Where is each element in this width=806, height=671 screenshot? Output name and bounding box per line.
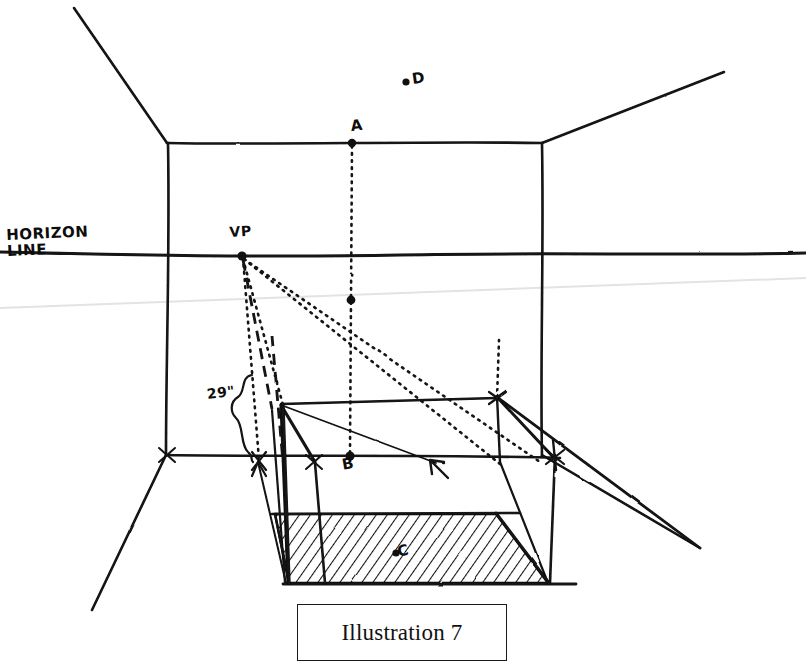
- dot-midpoint-on-ab: [347, 296, 356, 305]
- caption-text: Illustration 7: [342, 620, 463, 646]
- faint-guide-line: [0, 278, 806, 308]
- floor-ray-right: [542, 455, 700, 548]
- horizon-line: [0, 252, 806, 256]
- dotted-ray-vp-to-box-corner: [243, 259, 283, 405]
- ceiling-ray-right: [542, 72, 724, 143]
- point-b-label: B: [341, 456, 355, 474]
- dot-point-a: [348, 139, 356, 147]
- tick-mark-floor-left: [306, 455, 322, 469]
- box-top-horizontal: [281, 398, 497, 404]
- illustration-canvas: HORIZON LINE VP A D B C 29" Illustration…: [0, 0, 806, 671]
- point-d-label: D: [411, 70, 426, 87]
- dotted-vertical-right-upper: [497, 340, 499, 398]
- floor-plane-hatched: [275, 514, 548, 583]
- perspective-sketch: [0, 0, 806, 671]
- long-slanted-ray: [497, 397, 700, 548]
- arrow-pointer-right: [430, 460, 448, 478]
- back-wall-left-edge: [166, 143, 169, 455]
- measurement-brace: [232, 375, 253, 462]
- dashed-ray-vp-to-post: [243, 260, 272, 409]
- floor-diagonal-from-left: [281, 405, 436, 463]
- ceiling-ray-left: [74, 8, 167, 143]
- caption-box: Illustration 7: [297, 604, 507, 661]
- floor-plane-top-edge: [272, 513, 520, 514]
- back-wall-right-edge: [541, 143, 542, 457]
- point-a-label: A: [350, 118, 364, 135]
- box-right-post-outer: [497, 396, 500, 462]
- dot-vanishing-point: [237, 251, 246, 260]
- box-right-post-far: [550, 455, 555, 583]
- horizon-line-label: HORIZON LINE: [6, 224, 89, 259]
- vanishing-point-label: VP: [229, 223, 252, 239]
- floor-ray-left: [92, 455, 166, 610]
- measurement-label: 29": [206, 384, 236, 402]
- dot-point-d: [402, 78, 409, 85]
